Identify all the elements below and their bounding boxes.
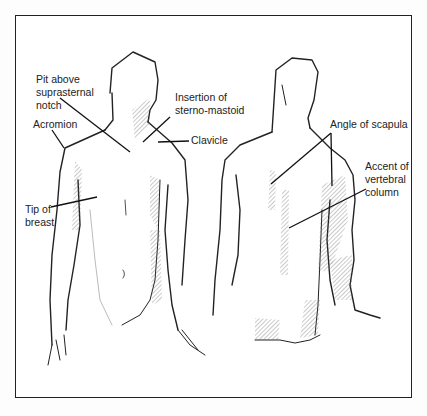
label-line: breast [25, 216, 54, 229]
label-insertion-sterno-mastoid: Insertion of sterno-mastoid [175, 91, 244, 117]
back-head [272, 58, 318, 132]
front-left-hand [48, 335, 66, 365]
label-line: Pit above [36, 73, 94, 86]
back-ear [282, 85, 286, 105]
anatomy-illustration [0, 0, 427, 416]
label-line: Accent of [365, 160, 409, 173]
leader-angle-scapula-left [271, 133, 331, 184]
leader-clavicle [158, 141, 189, 142]
label-line: Clavicle [191, 134, 228, 147]
front-sternum [125, 200, 126, 215]
label-acromion: Acromion [33, 118, 77, 131]
leader-acromion [52, 130, 64, 148]
label-line: notch [36, 99, 94, 112]
front-neck-left [105, 93, 113, 130]
label-angle-of-scapula: Angle of scapula [330, 118, 408, 131]
label-line: Insertion of [175, 91, 244, 104]
front-shading [72, 98, 162, 305]
label-line: Tip of [25, 203, 54, 216]
label-line: suprasternal [36, 86, 94, 99]
label-line: Angle of scapula [330, 118, 408, 131]
back-shoulder-left [213, 132, 272, 315]
label-line: column [365, 186, 409, 199]
label-tip-of-breast: Tip of breast [25, 203, 54, 229]
front-navel [123, 270, 125, 278]
leader-angle-scapula-right [331, 133, 332, 186]
leader-lines [51, 98, 366, 228]
front-right-arm-inner [165, 185, 178, 330]
label-line: Acromion [33, 118, 77, 131]
label-line: vertebral [365, 173, 409, 186]
label-accent-of-vertebral-column: Accent of vertebral column [365, 160, 409, 199]
label-pit-above-suprasternal-notch: Pit above suprasternal notch [36, 73, 94, 112]
label-line: sterno-mastoid [175, 104, 244, 117]
front-torso-left [90, 210, 112, 325]
front-right-hand [178, 330, 205, 355]
back-shading [255, 170, 352, 340]
label-clavicle: Clavicle [191, 134, 228, 147]
back-left-arm-inner [232, 175, 240, 285]
